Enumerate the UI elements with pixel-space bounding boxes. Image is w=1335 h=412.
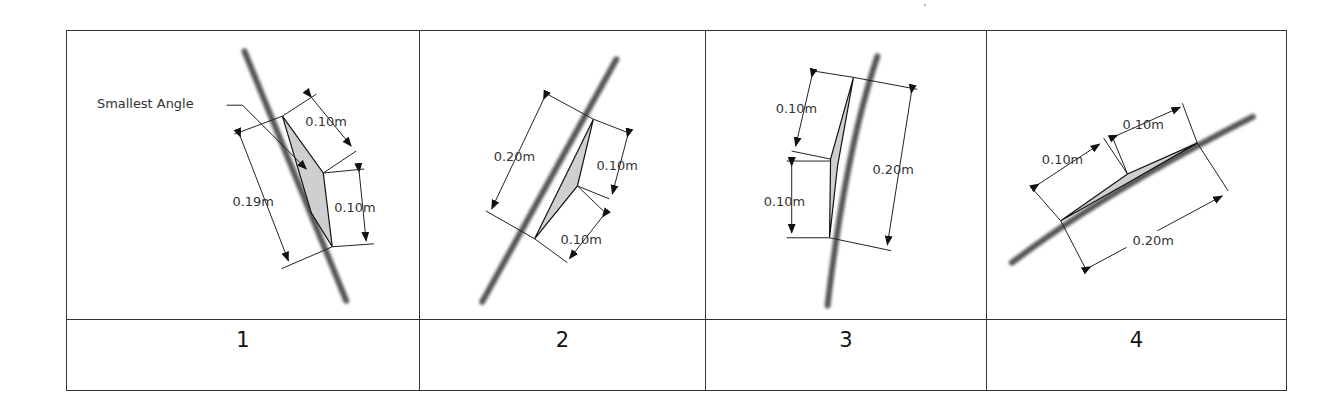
smallest-angle-label: Smallest Angle (97, 96, 194, 111)
rock-trace (482, 59, 617, 302)
dim-top: 0.10m (1123, 117, 1164, 132)
dim-long: 0.20m (494, 149, 535, 164)
drawing-row: Smallest Angle 0.10m 0.19m 0.10m (67, 31, 1287, 320)
panel-2-label: 2 (556, 328, 569, 352)
panel-3-label: 3 (839, 328, 852, 352)
panel-4-diagram: 0.10m 0.10m 0.20m (987, 31, 1286, 319)
panel-3-label-cell: 3 (706, 320, 987, 391)
label-row: 1 2 3 4 (67, 320, 1287, 391)
panel-2-label-cell: 2 (420, 320, 706, 391)
asperity-polygon (535, 119, 594, 239)
scan-speck (924, 4, 926, 6)
dim-top: 0.10m (305, 114, 346, 129)
panel-3-diagram: 0.10m 0.10m 0.20m (706, 31, 986, 319)
dim-right: 0.10m (334, 200, 375, 215)
panel-3-drawing: 0.10m 0.10m 0.20m (706, 31, 987, 320)
dim-long: 0.20m (872, 162, 913, 177)
panel-4-label-cell: 4 (987, 320, 1287, 391)
panel-1-drawing: Smallest Angle 0.10m 0.19m 0.10m (67, 31, 420, 320)
panel-4-drawing: 0.10m 0.10m 0.20m (987, 31, 1287, 320)
dim-left: 0.19m (233, 194, 274, 209)
dim-lower: 0.10m (764, 194, 805, 209)
panel-1-label-cell: 1 (67, 320, 420, 391)
dim-left: 0.10m (1042, 152, 1083, 167)
dim-lower: 0.10m (561, 232, 602, 247)
dim-long: 0.20m (1133, 233, 1174, 248)
panel-1-diagram: Smallest Angle 0.10m 0.19m 0.10m (67, 31, 419, 319)
dim-upper: 0.10m (596, 158, 637, 173)
figure-table: Smallest Angle 0.10m 0.19m 0.10m (66, 30, 1287, 391)
panel-1-label: 1 (236, 328, 249, 352)
dim-upper: 0.10m (776, 101, 817, 116)
panel-4-label: 4 (1130, 328, 1143, 352)
asperity-polygon (282, 116, 332, 247)
panel-2-diagram: 0.20m 0.10m 0.10m (420, 31, 705, 319)
panel-2-drawing: 0.20m 0.10m 0.10m (420, 31, 706, 320)
